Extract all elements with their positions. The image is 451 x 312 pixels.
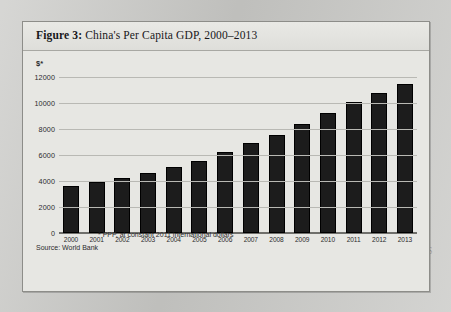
figure-footnotes: * PPP, at constant 2011 international do… (36, 229, 417, 255)
y-axis-tick-label: 6000 (39, 151, 55, 160)
page-title: Figure 3: China's Per Capita GDP, 2000–2… (36, 29, 429, 41)
bar (397, 84, 413, 234)
bar (114, 178, 130, 233)
bar (166, 167, 182, 233)
bar (320, 113, 336, 233)
gridline (59, 207, 417, 208)
y-axis-unit-label: $* (36, 59, 44, 68)
gridline (59, 181, 417, 182)
bar (243, 143, 259, 233)
figure-title-bar: Figure 3: China's Per Capita GDP, 2000–2… (23, 22, 429, 51)
figure-title-text: China's Per Capita GDP, 2000–2013 (85, 29, 257, 41)
bar (294, 124, 310, 233)
footnote-ppp: * PPP, at constant 2011 international do… (36, 229, 417, 242)
bar (217, 152, 233, 233)
gridline (59, 129, 417, 130)
gridline (59, 155, 417, 156)
bar-chart: 2000200120022003200420052006200720082009… (59, 77, 417, 233)
bar (191, 161, 207, 233)
footnote-source: Source: World Bank (36, 242, 417, 255)
gridline (59, 77, 417, 78)
figure-number-label: Figure 3: (36, 29, 82, 41)
gridline (59, 103, 417, 104)
bar (269, 135, 285, 233)
y-axis-tick-label: 2000 (39, 203, 55, 212)
y-axis-tick-label: 10000 (35, 99, 56, 108)
bar (371, 93, 387, 233)
chart-plot-area: $* 2000200120022003200420052006200720082… (23, 51, 429, 291)
y-axis-tick-label: 12000 (35, 73, 56, 82)
bar (140, 173, 156, 233)
bar (63, 186, 79, 233)
y-axis-tick-label: 8000 (39, 125, 55, 134)
figure-card: Figure 3: China's Per Capita GDP, 2000–2… (22, 21, 430, 292)
bar (346, 102, 362, 233)
y-axis-tick-label: 4000 (39, 177, 55, 186)
